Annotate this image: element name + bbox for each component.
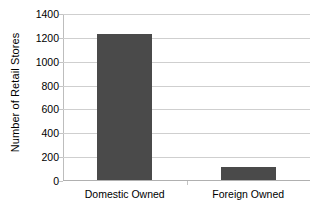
x-axis-tick-mark	[187, 181, 188, 185]
y-axis-tick-mark	[59, 181, 63, 182]
y-axis-tick-mark	[59, 157, 63, 158]
y-axis-line	[63, 14, 64, 181]
y-axis-tick-mark	[59, 86, 63, 87]
y-axis-tick-label: 1200	[22, 33, 59, 43]
y-axis-tick-label: 0	[22, 176, 59, 186]
y-axis-tick-mark	[59, 14, 63, 15]
y-axis-tick-mark	[59, 109, 63, 110]
y-axis-tick-label: 1000	[22, 57, 59, 67]
y-axis-tick-mark	[59, 38, 63, 39]
y-axis-tick-mark	[59, 133, 63, 134]
y-axis-tick-mark	[59, 62, 63, 63]
x-axis-tick-labels: Domestic OwnedForeign Owned	[63, 188, 310, 204]
y-axis-tick-label: 400	[22, 128, 59, 138]
y-axis-tick-label: 600	[22, 104, 59, 114]
x-axis-tick-label: Domestic Owned	[63, 188, 187, 200]
bar[interactable]	[97, 34, 152, 180]
bar-chart: Number of Retail Stores 1400120010008006…	[0, 0, 325, 215]
y-axis-tick-label: 1400	[22, 9, 59, 19]
bar[interactable]	[221, 167, 276, 180]
y-axis-tick-labels: 1400120010008006004002000	[22, 14, 59, 181]
x-axis-tick-label: Foreign Owned	[187, 188, 311, 200]
plot-area	[63, 14, 310, 181]
y-axis-tick-label: 200	[22, 152, 59, 162]
y-axis-tick-label: 800	[22, 81, 59, 91]
gridline	[63, 14, 310, 15]
